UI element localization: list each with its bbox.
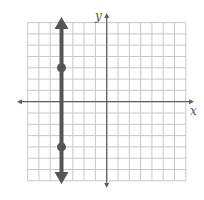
x-axis-label: x <box>190 104 197 118</box>
plotted-line <box>55 17 69 184</box>
y-axis-label: y <box>94 9 102 23</box>
axes: x y <box>17 9 197 188</box>
x-axis-arrow-left-icon <box>17 99 22 104</box>
y-axis-arrow-up-icon <box>104 13 109 18</box>
line-arrow-down-icon <box>55 172 69 184</box>
data-point <box>57 142 66 151</box>
coordinate-plane: x y <box>0 0 204 200</box>
y-axis-arrow-down-icon <box>104 183 109 188</box>
data-point <box>57 63 66 72</box>
